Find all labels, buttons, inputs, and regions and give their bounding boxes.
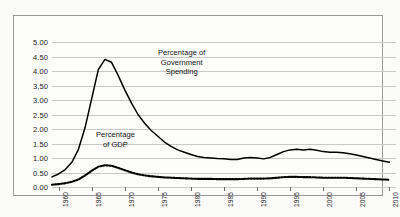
x-tick-label: 1965 — [95, 192, 102, 207]
annotation-gdp: Percentage of GDP — [96, 130, 135, 149]
x-tick-label: 2000 — [326, 192, 333, 207]
x-tick-label: 1970 — [128, 192, 135, 207]
x-tick-mark — [92, 187, 93, 191]
x-tick-label: 1995 — [293, 192, 300, 207]
y-tick-label: 2.50 — [33, 110, 48, 119]
series-layer — [52, 42, 396, 187]
y-tick-label: 4.50 — [33, 52, 48, 61]
x-tick-mark — [59, 187, 60, 191]
y-tick-label: 1.50 — [33, 139, 48, 148]
y-tick-label: 0.50 — [33, 168, 48, 177]
series-line — [52, 165, 389, 184]
y-tick-label: 4.00 — [33, 67, 48, 76]
x-tick-label: 1985 — [227, 192, 234, 207]
y-tick-label: 3.50 — [33, 81, 48, 90]
x-tick-mark — [224, 187, 225, 191]
x-tick-label: 2005 — [359, 192, 366, 207]
x-tick-mark — [191, 187, 192, 191]
x-tick-mark — [125, 187, 126, 191]
annotation-government-spending: Percentage of Government Spending — [158, 48, 205, 77]
x-tick-label: 1980 — [194, 192, 201, 207]
y-tick-label: 3.00 — [33, 96, 48, 105]
x-tick-label: 1990 — [260, 192, 267, 207]
x-tick-mark — [389, 187, 390, 191]
x-tick-label: 2010 — [392, 192, 399, 207]
y-tick-label: 1.00 — [33, 154, 48, 163]
plot-area: 0.000.501.001.502.002.503.003.504.004.50… — [52, 42, 396, 187]
y-tick-label: 5.00 — [33, 38, 48, 47]
y-tick-label: 0.00 — [33, 183, 48, 192]
x-tick-mark — [323, 187, 324, 191]
x-tick-mark — [290, 187, 291, 191]
x-tick-mark — [257, 187, 258, 191]
x-tick-label: 1975 — [161, 192, 168, 207]
x-tick-label: 1960 — [62, 192, 69, 207]
y-tick-label: 2.00 — [33, 125, 48, 134]
x-tick-mark — [356, 187, 357, 191]
x-tick-mark — [158, 187, 159, 191]
chart-frame: 0.000.501.001.502.002.503.003.504.004.50… — [13, 15, 383, 196]
series-line — [52, 59, 389, 176]
